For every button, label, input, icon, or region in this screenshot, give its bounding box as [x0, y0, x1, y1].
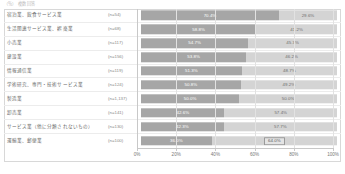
bar-segment-primary: 51.3% — [141, 66, 242, 75]
chart-row: 生活関連サービス業、娯楽業(n=68)58.8%41.2% — [4, 23, 341, 37]
bar-segment-secondary: 49.2% — [241, 80, 337, 89]
sample-size-label: (n=141) — [108, 110, 123, 116]
bar-area: 36.0%64.0% — [141, 136, 337, 145]
bar-value-label: 48.7% — [283, 68, 296, 73]
axis-tick-label: 100% — [327, 152, 339, 158]
sample-size-label: (n=156) — [108, 54, 123, 60]
sample-size-label: (n=117) — [108, 40, 123, 46]
bar-segment-primary: 42.3% — [141, 122, 224, 131]
bar-segment-secondary: 45.3% — [248, 39, 337, 48]
bar-segment-primary: 53.8% — [141, 52, 246, 61]
axis-tick — [255, 148, 256, 151]
chart-rows: 宿泊業、飲食サービス業(n=54)70.4%29.6%生活関連サービス業、娯楽業… — [4, 9, 341, 148]
axis-tick — [215, 148, 216, 151]
bar-value-label: 57.4% — [274, 110, 287, 115]
bar-value-label: 49.2% — [282, 82, 295, 87]
bar-value-label: 58.8% — [192, 27, 205, 32]
bar-area: 53.8%46.2% — [141, 52, 337, 61]
category-label: 卸売業 — [7, 110, 22, 116]
chart-row: 宿泊業、飲食サービス業(n=54)70.4%29.6% — [4, 9, 341, 23]
bar-segment-secondary: 64.0% — [212, 136, 337, 145]
bar-value-label: 42.3% — [176, 124, 189, 129]
bar-segment-secondary: 48.7% — [242, 66, 337, 75]
bar-segment-secondary: 57.4% — [224, 108, 337, 117]
axis-tick-label: 80% — [289, 152, 298, 158]
category-label: 製造業 — [7, 96, 22, 102]
sample-size-label: (n=100) — [108, 138, 123, 144]
stacked-bar-chart: （％） 複数回答 宿泊業、飲食サービス業(n=54)70.4%29.6%生活関連… — [0, 0, 345, 174]
bar-segment-primary: 58.8% — [141, 25, 256, 34]
value-axis-line — [137, 9, 138, 148]
bar-value-label: 64.0% — [264, 137, 285, 145]
chart-row: サービス業（他に分類されないもの）(n=130)42.3%57.7% — [4, 120, 341, 134]
chart-row: 学術研究、専門・技術サービス業(n=124)50.8%49.2% — [4, 78, 341, 92]
category-label: 建設業 — [7, 54, 22, 60]
bar-area: 42.3%57.7% — [141, 122, 337, 131]
axis-tick — [333, 148, 334, 151]
chart-caption: （％） 複数回答 — [4, 1, 35, 6]
bar-area: 42.6%57.4% — [141, 108, 337, 117]
sample-size-label: (n=130) — [108, 124, 123, 130]
sample-size-label: (n=119) — [108, 68, 123, 74]
bar-value-label: 70.4% — [204, 13, 217, 18]
bar-segment-primary: 50.8% — [141, 80, 241, 89]
bar-value-label: 50.0% — [184, 96, 197, 101]
sample-size-label: (n=1,137) — [108, 96, 127, 102]
category-label: 宿泊業、飲食サービス業 — [7, 12, 63, 18]
bar-value-label: 46.2% — [285, 55, 298, 60]
axis-tick-label: 60% — [250, 152, 259, 158]
bar-area: 70.4%29.6% — [141, 11, 337, 20]
category-label: 生活関連サービス業、娯楽業 — [7, 26, 73, 32]
axis-tick-label: 40% — [211, 152, 220, 158]
axis-tick — [294, 148, 295, 151]
sample-size-label: (n=68) — [108, 26, 121, 32]
chart-row: 運輸業、郵便業(n=100)36.0%64.0% — [4, 134, 341, 148]
bar-area: 54.7%45.3% — [141, 39, 337, 48]
bar-area: 50.0%50.0% — [141, 94, 337, 103]
bar-value-label: 41.2% — [290, 27, 303, 32]
bar-value-label: 45.3% — [286, 41, 299, 46]
chart-row: 情報通信業(n=119)51.3%48.7% — [4, 65, 341, 79]
bar-value-label: 36.0% — [170, 138, 183, 143]
category-label: 学術研究、専門・技術サービス業 — [7, 82, 83, 88]
category-label: 小売業 — [7, 40, 22, 46]
sample-size-label: (n=124) — [108, 82, 123, 88]
bar-segment-primary: 36.0% — [141, 136, 212, 145]
bar-value-label: 53.8% — [187, 55, 200, 60]
bar-segment-primary: 70.4% — [141, 11, 279, 20]
bar-value-label: 50.0% — [282, 96, 295, 101]
bar-segment-primary: 54.7% — [141, 39, 248, 48]
category-label: 情報通信業 — [7, 68, 32, 74]
bar-value-label: 50.8% — [184, 82, 197, 87]
x-axis-line — [137, 148, 333, 149]
chart-row: 製造業(n=1,137)50.0%50.0% — [4, 92, 341, 106]
bar-segment-primary: 42.6% — [141, 108, 224, 117]
bar-value-label: 29.6% — [302, 13, 315, 18]
category-label: サービス業（他に分類されないもの） — [7, 124, 93, 130]
chart-row: 小売業(n=117)54.7%45.3% — [4, 37, 341, 51]
bar-value-label: 51.3% — [185, 68, 198, 73]
axis-tick — [176, 148, 177, 151]
bar-value-label: 54.7% — [188, 41, 201, 46]
bar-area: 51.3%48.7% — [141, 66, 337, 75]
bar-segment-secondary: 46.2% — [246, 52, 337, 61]
bar-segment-secondary: 41.2% — [256, 25, 337, 34]
axis-tick-label: 20% — [172, 152, 181, 158]
bar-value-label: 57.7% — [274, 124, 287, 129]
chart-row: 卸売業(n=141)42.6%57.4% — [4, 106, 341, 120]
category-label: 運輸業、郵便業 — [7, 138, 42, 144]
bar-segment-secondary: 29.6% — [279, 11, 337, 20]
bar-segment-secondary: 57.7% — [224, 122, 337, 131]
bar-area: 58.8%41.2% — [141, 25, 337, 34]
bar-segment-secondary: 50.0% — [239, 94, 337, 103]
axis-tick-label: 0% — [134, 152, 141, 158]
bar-area: 50.8%49.2% — [141, 80, 337, 89]
sample-size-label: (n=54) — [108, 12, 121, 18]
x-axis: 0%20%40%60%80%100% — [137, 148, 333, 162]
bar-value-label: 42.6% — [176, 110, 189, 115]
axis-tick — [137, 148, 138, 151]
bar-segment-primary: 50.0% — [141, 94, 239, 103]
chart-row: 建設業(n=156)53.8%46.2% — [4, 51, 341, 65]
